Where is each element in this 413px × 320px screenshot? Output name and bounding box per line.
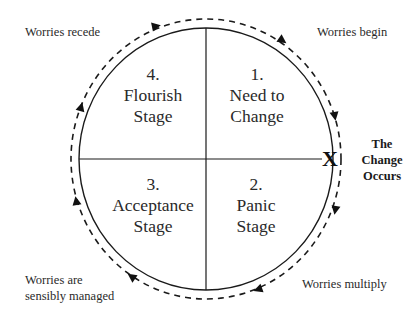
quadrant-flourish-stage: 4. Flourish Stage — [93, 64, 213, 127]
arrow-icon — [330, 111, 340, 121]
arrow-icon — [330, 205, 340, 215]
stage-number: 4. — [93, 64, 213, 85]
stage-number: 1. — [197, 64, 317, 85]
change-x-marker: X — [322, 148, 338, 170]
arrow-icon — [151, 21, 162, 32]
label-worries-recede: Worries recede — [25, 24, 100, 40]
stage-title-line1: Flourish — [93, 85, 213, 106]
label-worries-begin: Worries begin — [317, 24, 387, 40]
arrow-icon — [71, 195, 81, 205]
label-change-occurs: The Change Occurs — [352, 136, 412, 184]
stage-title-line1: Acceptance — [93, 195, 213, 216]
quadrant-panic-stage: 2. Panic Stage — [196, 174, 316, 237]
stage-title-line2: Stage — [93, 106, 213, 127]
stage-title-line1: Need to — [197, 85, 317, 106]
label-worries-managed: Worries are sensibly managed — [25, 272, 114, 304]
label-change-line1: The — [352, 136, 412, 152]
label-change-line3: Occurs — [352, 168, 412, 184]
stage-number: 2. — [196, 174, 316, 195]
label-change-line2: Change — [352, 152, 412, 168]
stage-title-line2: Stage — [93, 216, 213, 237]
label-worries-multiply: Worries multiply — [302, 276, 387, 292]
stage-title-line1: Panic — [196, 195, 316, 216]
quadrant-acceptance-stage: 3. Acceptance Stage — [93, 174, 213, 237]
quadrant-need-to-change: 1. Need to Change — [197, 64, 317, 127]
label-worries-managed-line2: sensibly managed — [25, 288, 114, 304]
stage-number: 3. — [93, 174, 213, 195]
stage-title-line2: Stage — [196, 216, 316, 237]
arrow-icon — [276, 34, 289, 47]
label-worries-managed-line1: Worries are — [25, 272, 114, 288]
stage-title-line2: Change — [197, 106, 317, 127]
arrow-icon — [76, 101, 87, 112]
change-cycle-diagram: Worries recede Worries begin Worries mul… — [0, 0, 413, 320]
